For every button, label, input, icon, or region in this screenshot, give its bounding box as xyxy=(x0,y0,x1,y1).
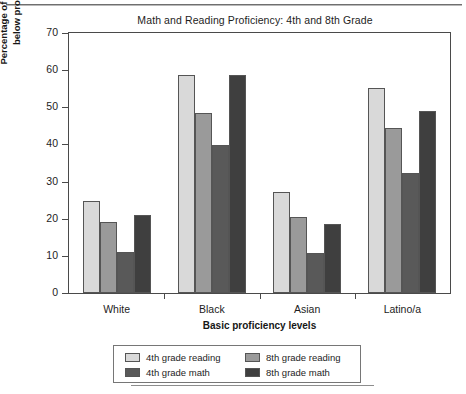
legend-item: 8th grade math xyxy=(245,367,330,378)
y-axis-tick-label: 40 xyxy=(24,137,58,149)
bar xyxy=(273,192,290,293)
legend-swatch-icon xyxy=(245,368,260,377)
legend-item: 4th grade math xyxy=(125,367,210,378)
bar xyxy=(229,75,246,293)
x-axis-tick-mark xyxy=(355,293,356,299)
legend-label: 8th grade math xyxy=(266,367,330,378)
x-axis-tick-mark xyxy=(164,293,165,299)
x-axis-tick-mark xyxy=(260,293,261,299)
legend-label: 8th grade reading xyxy=(266,352,340,363)
chart-title: Math and Reading Proficiency: 4th and 8t… xyxy=(60,14,450,26)
bar xyxy=(307,253,324,293)
page-bottom-rule xyxy=(131,385,374,386)
bar xyxy=(290,217,307,293)
bar xyxy=(134,215,151,293)
legend-label: 4th grade reading xyxy=(146,352,220,363)
y-axis-label-line1: Percentage of students who fall xyxy=(0,0,11,78)
x-axis-category-label: White xyxy=(69,303,164,315)
x-axis-category-label: Asian xyxy=(260,303,355,315)
bar xyxy=(402,173,419,293)
bar xyxy=(83,201,100,293)
bar xyxy=(324,224,341,293)
y-axis-tick-label: 0 xyxy=(24,286,58,298)
y-axis-tick-label: 20 xyxy=(24,212,58,224)
page-top-rule-shadow xyxy=(6,5,462,6)
legend-swatch-icon xyxy=(125,368,140,377)
bar xyxy=(368,88,385,293)
y-axis-tick-label: 70 xyxy=(24,26,58,38)
chart-figure: Math and Reading Proficiency: 4th and 8t… xyxy=(0,0,466,394)
bar xyxy=(212,145,229,293)
bar xyxy=(385,128,402,293)
bar xyxy=(195,113,212,294)
legend-swatch-icon xyxy=(125,353,140,362)
bar xyxy=(419,111,436,293)
legend-label: 4th grade math xyxy=(146,367,210,378)
legend-item: 4th grade reading xyxy=(125,352,220,363)
bar xyxy=(117,252,134,293)
y-axis-tick-label: 60 xyxy=(24,63,58,75)
bar-series-layer xyxy=(69,33,450,293)
y-axis-tick-label: 50 xyxy=(24,100,58,112)
chart-legend: 4th grade reading 8th grade reading 4th … xyxy=(113,345,361,383)
y-axis-label-line2: below proficiency level xyxy=(11,0,24,78)
legend-swatch-icon xyxy=(245,353,260,362)
x-axis-label: Basic proficiency levels xyxy=(68,320,451,331)
y-axis-tick-label: 30 xyxy=(24,175,58,187)
bar xyxy=(178,75,195,293)
bar xyxy=(100,222,117,293)
legend-item: 8th grade reading xyxy=(245,352,340,363)
x-axis-category-label: Black xyxy=(164,303,259,315)
x-axis-category-label: Latino/a xyxy=(355,303,450,315)
y-axis-tick-label: 10 xyxy=(24,249,58,261)
